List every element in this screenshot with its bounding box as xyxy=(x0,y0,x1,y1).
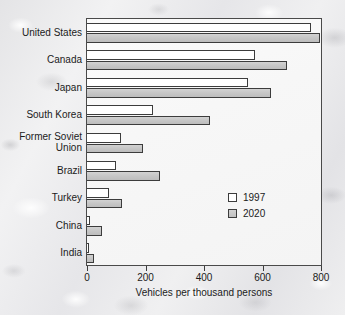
legend-swatch-2020 xyxy=(228,209,237,218)
x-tick-mark xyxy=(321,266,322,271)
x-tick-label: 600 xyxy=(254,272,271,283)
x-tick-mark xyxy=(87,266,88,271)
category-label: India xyxy=(0,247,82,258)
category-label: Japan xyxy=(0,81,82,92)
x-tick-label: 200 xyxy=(137,272,154,283)
category-label: China xyxy=(0,219,82,230)
legend-entry-1997: 1997 xyxy=(228,192,265,203)
category-label: Turkey xyxy=(0,192,82,203)
category-label: United States xyxy=(0,26,82,37)
category-label: Canada xyxy=(0,54,82,65)
x-axis-tick-labels: 0200400600800 xyxy=(86,272,322,285)
x-tick-mark xyxy=(204,266,205,271)
category-label: Former Soviet Union xyxy=(0,131,82,153)
legend-entry-2020: 2020 xyxy=(228,208,265,219)
x-tick-label: 400 xyxy=(196,272,213,283)
x-tick-mark xyxy=(263,266,264,271)
category-label: South Korea xyxy=(0,109,82,120)
legend-swatch-1997 xyxy=(228,193,237,202)
bar-chart-figure: United StatesCanadaJapanSouth KoreaForme… xyxy=(0,0,345,315)
x-tick-mark xyxy=(146,266,147,271)
category-label: Brazil xyxy=(0,164,82,175)
x-tick-label: 0 xyxy=(84,272,90,283)
category-axis-labels: United StatesCanadaJapanSouth KoreaForme… xyxy=(0,18,345,266)
chart-legend: 1997 2020 xyxy=(228,192,265,219)
legend-label-1997: 1997 xyxy=(243,192,265,203)
legend-label-2020: 2020 xyxy=(243,208,265,219)
x-axis-title: Vehicles per thousand persons xyxy=(86,287,322,298)
x-tick-label: 800 xyxy=(313,272,330,283)
